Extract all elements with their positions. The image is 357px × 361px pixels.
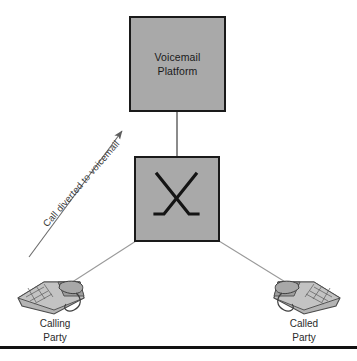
bottom-divider bbox=[0, 346, 357, 349]
called-party-label: Called Party bbox=[256, 317, 352, 344]
calling-party-label-line1: Calling bbox=[40, 318, 71, 329]
calling-party-label-line2: Party bbox=[43, 332, 66, 343]
called-party-label-line1: Called bbox=[290, 318, 318, 329]
diagram-canvas: Voicemail Platform Call diverted to voic… bbox=[0, 0, 357, 361]
voicemail-platform-label-line2: Platform bbox=[158, 65, 198, 77]
voicemail-platform-node[interactable]: Voicemail Platform bbox=[129, 16, 226, 112]
calling-party-label: Calling Party bbox=[7, 317, 103, 344]
voicemail-platform-label-line1: Voicemail bbox=[155, 51, 201, 63]
called-party-label-line2: Party bbox=[292, 332, 315, 343]
calling-party-phone[interactable] bbox=[14, 272, 92, 320]
crossed-lines-switch-symbol bbox=[136, 158, 218, 240]
switch-node[interactable] bbox=[134, 156, 220, 242]
desk-phone-icon bbox=[14, 272, 92, 320]
desk-phone-icon bbox=[266, 272, 344, 320]
diverted-call-annotation: Call diverted to voicemail bbox=[34, 131, 128, 236]
voicemail-platform-label: Voicemail Platform bbox=[155, 50, 201, 78]
called-party-phone[interactable] bbox=[266, 272, 344, 320]
